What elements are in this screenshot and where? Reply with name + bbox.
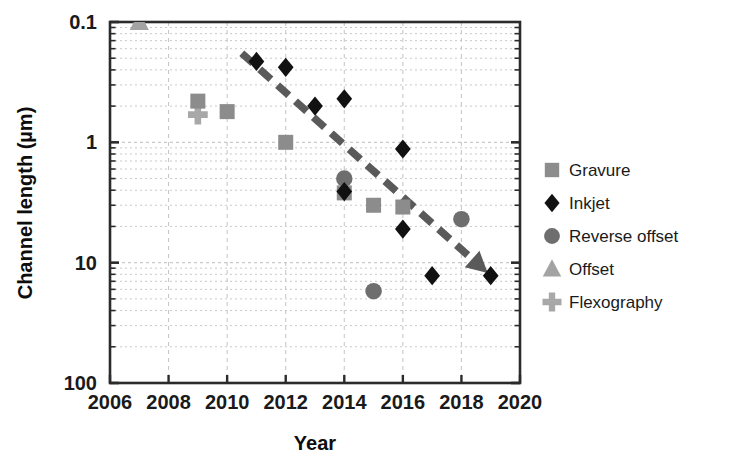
y-tick-label: 1 [86, 131, 97, 153]
circle-data-marker [365, 283, 382, 300]
legend-label: Offset [569, 260, 614, 279]
x-tick-label: 2010 [205, 391, 250, 413]
y-axis-tick-labels: 1001010.1 [64, 11, 97, 394]
square-data-marker [395, 200, 410, 215]
x-axis-title: Year [294, 432, 336, 454]
square-data-marker [220, 104, 235, 119]
x-tick-label: 2016 [381, 391, 426, 413]
legend-item-reverse-offset: Reverse offset [544, 227, 678, 246]
x-tick-label: 2008 [146, 391, 191, 413]
legend-label: Gravure [569, 161, 630, 180]
diamond-marker-icon [544, 194, 559, 212]
square-data-marker [366, 198, 381, 213]
circle-data-marker [453, 211, 470, 228]
square-data-marker [278, 135, 293, 150]
x-tick-label: 2014 [322, 391, 367, 413]
x-tick-label: 2012 [263, 391, 308, 413]
x-tick-label: 2020 [498, 391, 543, 413]
legend-item-offset: Offset [543, 259, 615, 279]
scatter-plot-canvas: 1001010.1 200620082010201220142016201820… [0, 0, 731, 462]
legend-label: Inkjet [569, 194, 610, 213]
y-tick-label: 10 [75, 252, 97, 274]
legend-item-inkjet: Inkjet [544, 194, 609, 213]
plot-area-background [110, 22, 520, 383]
legend-label: Reverse offset [569, 227, 679, 246]
circle-marker-icon [544, 228, 560, 244]
square-marker-icon [545, 163, 559, 177]
triangle-marker-icon [543, 259, 561, 276]
y-tick-label: 0.1 [69, 11, 97, 33]
legend-item-gravure: Gravure [545, 161, 631, 180]
square-data-marker [190, 94, 205, 109]
x-axis-tick-labels: 20062008201020122014201620182020 [88, 391, 543, 413]
x-tick-label: 2018 [439, 391, 484, 413]
x-tick-label: 2006 [88, 391, 133, 413]
legend-item-flexography: Flexography [542, 292, 663, 312]
chart-figure: 1001010.1 200620082010201220142016201820… [0, 0, 731, 462]
y-axis-title: Channel length (µm) [14, 107, 36, 300]
plus-marker-icon [542, 292, 561, 311]
legend: GravureInkjetReverse offsetOffsetFlexogr… [542, 161, 678, 312]
legend-label: Flexography [569, 293, 663, 312]
